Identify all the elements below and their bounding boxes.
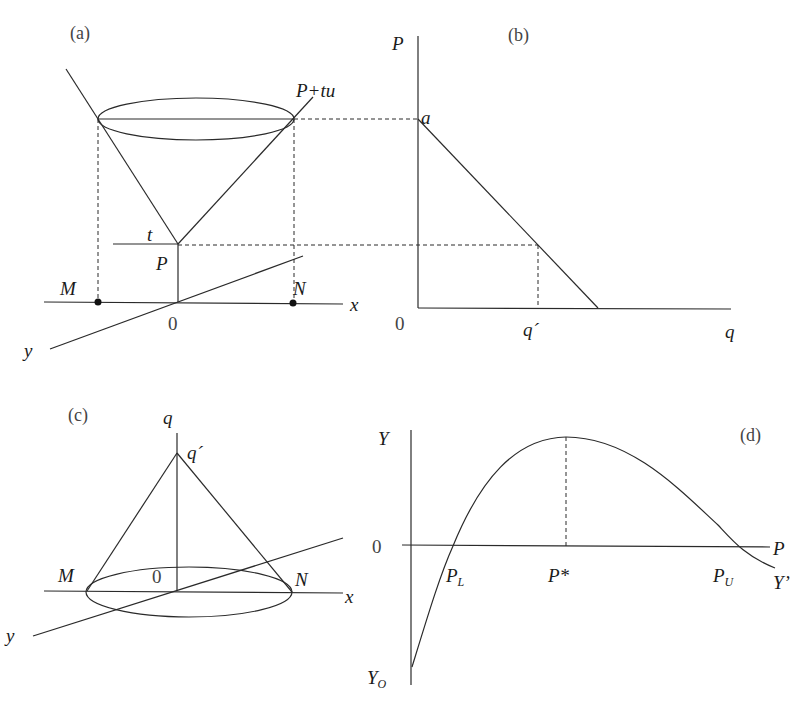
label-a: a [421,107,431,128]
cone-left-generator [66,69,178,244]
label-q-prime-b: q´ [523,319,540,340]
figure-canvas: (a) P+tu t P M N x y 0 (b) [0,0,802,716]
label-q-axis-c: q [163,407,173,428]
label-m-c: M [57,565,75,586]
x-axis-c [44,591,343,593]
label-n-c: N [294,569,309,590]
label-p: P [155,253,168,274]
label-origin-c: 0 [152,566,162,587]
demand-line [418,119,598,308]
panel-a: (a) P+tu t P M N x y 0 [22,23,359,361]
panel-c: (c) q q´ M N 0 x y [4,405,354,646]
label-origin-d: 0 [372,536,382,557]
label-p-l: PL [445,565,465,589]
panel-a-tag: (a) [70,23,90,44]
label-y-c: y [4,625,15,646]
label-p-plus-tu: P+tu [295,80,335,101]
panel-b: (b) P a 0 q´ q [391,25,735,342]
x-axis-a [44,302,343,304]
panel-c-tag: (c) [68,405,88,426]
label-x-c: x [344,586,354,607]
y-curve [412,437,775,667]
label-y-axis-d: Y [378,428,391,449]
label-n: N [292,278,307,299]
label-t: t [147,224,153,245]
label-q-axis-b: q [725,321,735,342]
panel-d: (d) Y 0 PL P* PU P Y’ YO [367,425,790,691]
panel-d-tag: (d) [740,425,761,446]
point-m [95,299,102,306]
label-y: y [22,340,33,361]
label-y-o: YO [367,667,387,691]
label-x: x [349,294,359,315]
p-axis-d [402,545,770,547]
cone-left-edge [87,453,177,591]
label-y-prime: Y’ [773,572,790,593]
panel-b-tag: (b) [508,25,529,46]
label-p-axis-b: P [391,33,404,54]
label-p-star: P* [547,565,570,586]
label-origin-a: 0 [168,313,178,334]
label-p-axis-d: P [772,538,785,559]
label-origin-b: 0 [395,313,405,334]
q-axis-b [418,308,731,309]
point-n [290,300,297,307]
label-m: M [59,278,77,299]
label-p-u: PU [712,565,735,589]
label-q-prime-c: q´ [187,442,204,463]
cone-right-edge [177,453,292,592]
